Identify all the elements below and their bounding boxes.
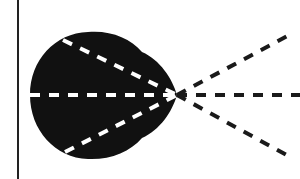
diverging-ray-upper xyxy=(177,33,293,95)
diverging-ray-lower xyxy=(177,95,292,158)
diverging-rays xyxy=(177,33,300,158)
ray-diagram xyxy=(0,0,300,179)
diagram-canvas xyxy=(0,0,300,179)
